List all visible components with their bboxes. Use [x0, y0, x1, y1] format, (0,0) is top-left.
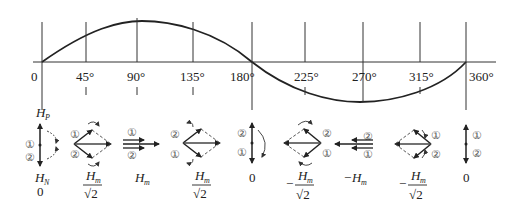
value-180: 0	[249, 170, 256, 185]
magnetic-field-rotation-diagram: 0 45° 90° 135° 180° 225° 270° 315° 360° …	[0, 0, 514, 212]
marker-2: ②	[237, 127, 247, 139]
marker-1: ①	[25, 138, 35, 150]
marker-1: ①	[363, 148, 373, 160]
marker-1: ①	[472, 129, 482, 141]
vector-state-225: ② ①	[284, 121, 332, 165]
frac-num-sub: m	[420, 176, 426, 185]
sign: −	[286, 176, 293, 191]
marker-1: ①	[322, 147, 332, 159]
frac-den: √2	[193, 186, 207, 201]
vector-state-360: ① ②	[465, 125, 483, 163]
marker-2: ②	[127, 149, 137, 161]
tick-label-90: 90°	[127, 69, 145, 84]
vector-state-90: ① ②	[123, 126, 159, 161]
waveform	[33, 18, 496, 110]
axis-tick-labels: 0 45° 90° 135° 180° 225° 270° 315° 360°	[31, 69, 494, 84]
marker-2: ②	[472, 147, 482, 159]
frac-num-sub: m	[204, 176, 210, 185]
vector-state-135: ② ①	[170, 123, 220, 164]
hp-sub: P	[44, 113, 50, 122]
frac-num-sub: m	[307, 176, 313, 185]
marker-1: ①	[70, 128, 80, 140]
vector-state-315: ① ②	[395, 129, 441, 160]
tick-label-45: 45°	[76, 69, 94, 84]
tick-label-315: 315°	[409, 69, 434, 84]
vector-state-0: ① ②	[25, 124, 56, 166]
marker-2: ②	[170, 128, 180, 140]
frac-den: √2	[409, 187, 423, 202]
marker-1: ①	[127, 126, 137, 138]
frac-den: √2	[84, 186, 98, 201]
frac-den: √2	[296, 187, 310, 202]
hp-label: H P	[35, 105, 50, 122]
tick-label-135: 135°	[180, 69, 205, 84]
hm-sub: m	[144, 178, 150, 187]
sign: −	[344, 170, 351, 185]
tick-label-0: 0	[31, 69, 38, 84]
value-360: 0	[463, 170, 470, 185]
marker-2: ②	[322, 127, 332, 139]
sign: −	[399, 176, 406, 191]
vector-state-45: ① ②	[70, 122, 111, 166]
vector-state-270: ② ①	[335, 130, 373, 160]
hm-sub: m	[361, 178, 367, 187]
tick-label-180: 180°	[230, 69, 255, 84]
marker-1: ①	[431, 129, 441, 141]
marker-2: ②	[25, 151, 35, 163]
tick-label-225: 225°	[294, 69, 319, 84]
value-labels: H N 0 H m √2 H m H m √2 0 − H m √2 − H m…	[34, 168, 470, 202]
marker-1: ①	[237, 146, 247, 158]
frac-num-sub: m	[95, 176, 101, 185]
marker-2: ②	[431, 148, 441, 160]
tick-label-360: 360°	[469, 69, 494, 84]
value-0: 0	[37, 184, 44, 199]
tick-label-270: 270°	[352, 69, 377, 84]
hn-sub: N	[43, 178, 50, 187]
marker-1: ①	[170, 148, 180, 160]
vector-state-180: ② ①	[237, 123, 265, 163]
marker-2: ②	[70, 148, 80, 160]
